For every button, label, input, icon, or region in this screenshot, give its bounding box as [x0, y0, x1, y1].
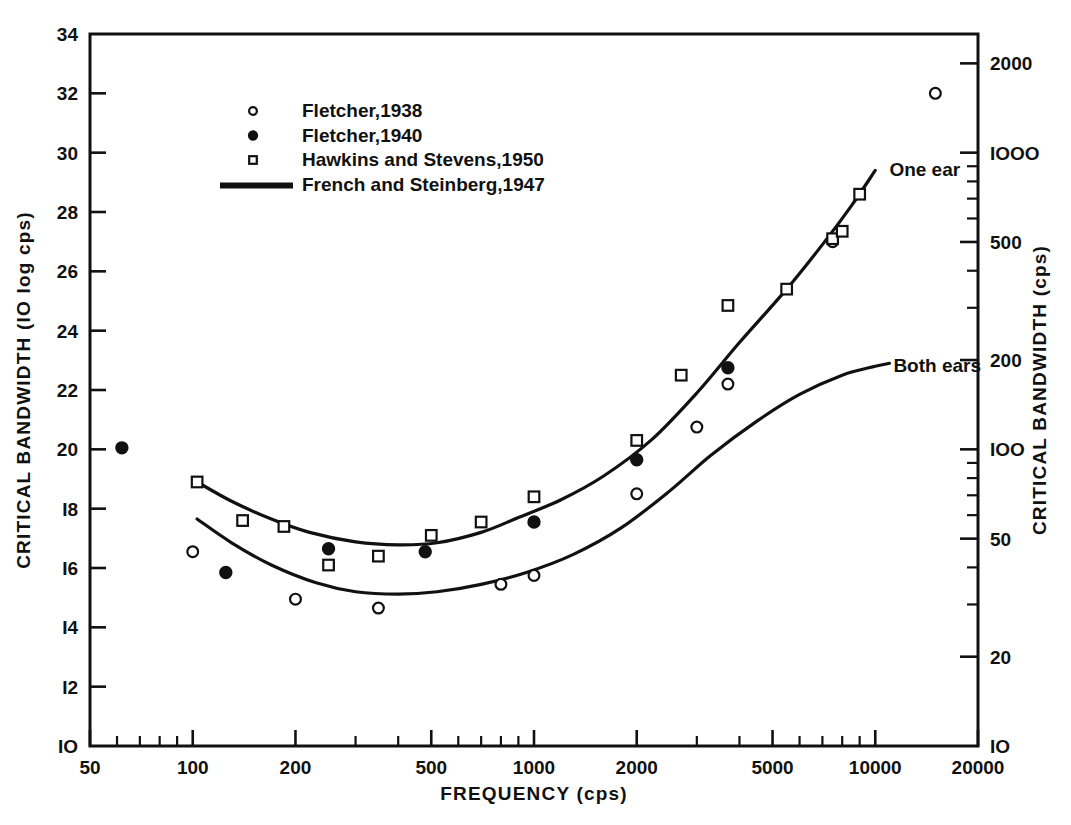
marker-open-circle [373, 603, 384, 614]
y2-tick-label: 200 [990, 350, 1022, 371]
marker-open-square [854, 189, 865, 200]
marker-open-square [723, 300, 734, 311]
marker-filled-circle [323, 543, 334, 554]
curve-label-one-ear: One ear [889, 159, 960, 180]
legend-label: Fletcher,1938 [302, 100, 422, 121]
legend-label: Fletcher,1940 [302, 125, 422, 146]
chart-canvas: 501002005001000200050001000020000 IOI2I4… [0, 0, 1071, 825]
marker-open-circle [930, 88, 941, 99]
y2-tick-label: 2000 [990, 53, 1032, 74]
x-tick-label: 50 [79, 757, 100, 778]
y-tick-label: 34 [57, 24, 79, 45]
y2-tick-label: IOO [990, 439, 1025, 460]
marker-open-square [373, 551, 384, 562]
marker-open-circle [290, 594, 301, 605]
marker-open-circle [691, 422, 702, 433]
marker-open-circle [723, 379, 734, 390]
marker-open-square [192, 477, 203, 488]
y-tick-label: 30 [57, 143, 78, 164]
legend-swatch-open-square [249, 156, 257, 164]
marker-open-circle [496, 579, 507, 590]
x-tick-label: 1000 [513, 757, 555, 778]
x-tick-label: 100 [177, 757, 209, 778]
legend-label: Hawkins and Stevens,1950 [302, 149, 544, 170]
y-tick-label: 28 [57, 202, 78, 223]
chart-background [0, 0, 1071, 825]
y-tick-label: I4 [62, 617, 78, 638]
y2-tick-label: IOOO [990, 143, 1040, 164]
y-tick-label: 26 [57, 261, 78, 282]
y-axis-title: CRITICAL BANDWIDTH (IO log cps) [13, 211, 34, 569]
marker-filled-circle [220, 567, 231, 578]
marker-open-square [323, 560, 334, 571]
y-tick-label: 22 [57, 380, 78, 401]
y2-tick-label: IO [990, 736, 1010, 757]
x-tick-label: 5000 [751, 757, 793, 778]
marker-open-square [426, 530, 437, 541]
y-tick-label: 20 [57, 439, 78, 460]
marker-filled-circle [116, 442, 127, 453]
marker-filled-circle [420, 546, 431, 557]
y-tick-label: 24 [57, 321, 79, 342]
marker-filled-circle [722, 362, 733, 373]
marker-open-square [676, 370, 687, 381]
marker-open-square [837, 226, 848, 237]
y-tick-label: I6 [62, 558, 78, 579]
y-tick-label: IO [58, 736, 78, 757]
x-tick-label: 10000 [849, 757, 902, 778]
y-tick-label: I2 [62, 677, 78, 698]
marker-open-circle [529, 570, 540, 581]
marker-open-square [476, 517, 487, 528]
y-tick-label: I8 [62, 499, 78, 520]
y2-tick-label: 20 [990, 647, 1011, 668]
marker-filled-circle [528, 516, 539, 527]
y-tick-label: 32 [57, 83, 78, 104]
critical-bandwidth-figure: 501002005001000200050001000020000 IOI2I4… [0, 0, 1071, 825]
legend-label: French and Steinberg,1947 [302, 174, 545, 195]
legend-swatch-filled-circle [249, 131, 257, 139]
x-tick-label: 2000 [616, 757, 658, 778]
x-tick-label: 20000 [952, 757, 1005, 778]
y2-tick-label: 500 [990, 232, 1022, 253]
curve-label-both-ears: Both ears [893, 355, 981, 376]
marker-filled-circle [631, 454, 642, 465]
x-tick-label: 200 [280, 757, 312, 778]
marker-open-square [237, 515, 248, 526]
x-axis-title: FREQUENCY (cps) [440, 783, 628, 804]
x-tick-label: 500 [415, 757, 447, 778]
marker-open-circle [631, 488, 642, 499]
marker-open-square [631, 435, 642, 446]
marker-open-circle [187, 546, 198, 557]
marker-open-square [529, 492, 540, 503]
legend-swatch-open-circle [249, 107, 257, 115]
marker-open-square [781, 284, 792, 295]
y2-tick-label: 50 [990, 529, 1011, 550]
y2-axis-title: CRITICAL BANDWIDTH (cps) [1029, 245, 1050, 535]
marker-open-square [279, 521, 290, 532]
